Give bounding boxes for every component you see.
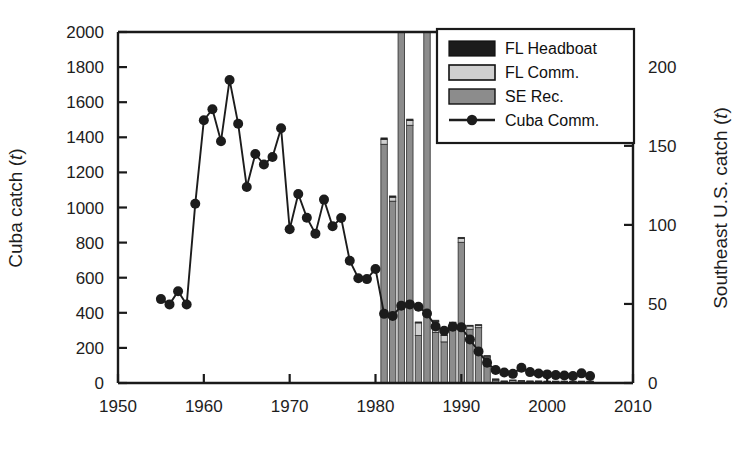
bar-segment bbox=[535, 381, 541, 382]
legend-label-fl-comm: FL Comm. bbox=[505, 64, 579, 81]
bar-segment bbox=[484, 356, 490, 357]
cuba-comm-point bbox=[156, 294, 166, 304]
x-tick-label: 1960 bbox=[185, 397, 223, 416]
bar-segment bbox=[561, 381, 567, 382]
cuba-comm-point bbox=[225, 75, 235, 85]
y-tick-label-left: 1000 bbox=[66, 199, 104, 218]
y-tick-label-left: 1400 bbox=[66, 128, 104, 147]
legend-label-fl-headboat: FL Headboat bbox=[505, 40, 597, 57]
y-tick-label-right: 150 bbox=[648, 137, 676, 156]
bar-stack bbox=[467, 325, 473, 383]
legend-item-fl-headboat[interactable]: FL Headboat bbox=[449, 40, 597, 57]
cuba-comm-point bbox=[250, 149, 260, 159]
cuba-comm-point bbox=[431, 321, 441, 331]
legend: FL Headboat FL Comm. SE Rec. Cuba Comm. bbox=[437, 29, 634, 143]
bar-segment bbox=[467, 325, 473, 326]
cuba-comm-point bbox=[362, 274, 372, 284]
bar-segment bbox=[415, 323, 421, 336]
y-tick-label-right: 50 bbox=[648, 295, 667, 314]
bar-segment bbox=[458, 237, 464, 238]
bar-segment bbox=[415, 322, 421, 323]
bar-segment bbox=[467, 326, 473, 329]
legend-label-se-rec: SE Rec. bbox=[505, 88, 564, 105]
cuba-comm-point bbox=[422, 309, 432, 319]
bar-segment bbox=[587, 381, 593, 382]
bar-segment bbox=[432, 332, 438, 383]
x-tick-label: 2010 bbox=[614, 397, 652, 416]
legend-item-se-rec[interactable]: SE Rec. bbox=[449, 88, 564, 105]
cuba-comm-point bbox=[491, 365, 501, 375]
bar-segment bbox=[441, 342, 447, 383]
y-tick-label-left: 600 bbox=[76, 269, 104, 288]
cuba-comm-point bbox=[396, 301, 406, 311]
y-tick-label-left: 2000 bbox=[66, 23, 104, 42]
bar-segment bbox=[501, 381, 507, 382]
bar-stack bbox=[441, 335, 447, 383]
cuba-comm-point bbox=[293, 189, 303, 199]
cuba-comm-point bbox=[499, 367, 509, 377]
cuba-comm-point bbox=[413, 302, 423, 312]
cuba-comm-point bbox=[388, 311, 398, 321]
bar-segment bbox=[553, 381, 559, 382]
legend-swatch-fl-headboat bbox=[449, 41, 495, 56]
cuba-comm-point bbox=[207, 104, 217, 114]
cuba-comm-point bbox=[456, 322, 466, 332]
y-tick-label-right: 100 bbox=[648, 216, 676, 235]
bar-segment bbox=[432, 320, 438, 321]
cuba-comm-point bbox=[302, 213, 312, 223]
cuba-comm-point bbox=[585, 371, 595, 381]
bar-segment bbox=[578, 381, 584, 382]
chart-svg: 1950196019701980199020002010020040060080… bbox=[0, 0, 747, 449]
bar-segment bbox=[424, 32, 430, 383]
cuba-comm-point bbox=[465, 334, 475, 344]
bar-stack bbox=[407, 119, 413, 383]
y-tick-label-left: 400 bbox=[76, 304, 104, 323]
bar-segment bbox=[492, 379, 498, 380]
bar-segment bbox=[510, 380, 516, 381]
bar-stack bbox=[458, 237, 464, 383]
bar-segment bbox=[441, 336, 447, 342]
bar-segment bbox=[570, 381, 576, 382]
cuba-comm-point bbox=[516, 363, 526, 373]
bar-segment bbox=[527, 381, 533, 382]
cuba-comm-point bbox=[328, 221, 338, 231]
y-axis-label-left: Cuba catch (t) bbox=[5, 148, 26, 267]
bar-stack bbox=[398, 19, 404, 383]
bar-stack bbox=[389, 196, 395, 383]
y-tick-label-left: 0 bbox=[95, 374, 104, 393]
chart-figure: 1950196019701980199020002010020040060080… bbox=[0, 0, 747, 449]
y-tick-label-right: 200 bbox=[648, 58, 676, 77]
cuba-comm-point bbox=[525, 367, 535, 377]
cuba-comm-point bbox=[577, 368, 587, 378]
cuba-comm-point bbox=[173, 286, 183, 296]
cuba-comm-point bbox=[285, 224, 295, 234]
cuba-comm-point bbox=[439, 326, 449, 336]
cuba-comm-point bbox=[310, 229, 320, 239]
bar-segment bbox=[415, 336, 421, 383]
y-axis-label-right: Southeast U.S. catch (t) bbox=[710, 107, 731, 309]
legend-swatch-fl-comm bbox=[449, 65, 495, 80]
cuba-comm-point bbox=[371, 264, 381, 274]
cuba-comm-point bbox=[482, 358, 492, 368]
cuba-comm-point bbox=[336, 213, 346, 223]
legend-swatch-se-rec bbox=[449, 89, 495, 104]
bar-segment bbox=[407, 119, 413, 120]
bar-segment bbox=[450, 328, 456, 383]
bar-segment bbox=[398, 24, 404, 383]
cuba-comm-point bbox=[268, 152, 278, 162]
cuba-comm-point bbox=[182, 300, 192, 310]
y-tick-label-left: 800 bbox=[76, 234, 104, 253]
x-tick-label: 2000 bbox=[528, 397, 566, 416]
bar-segment bbox=[458, 238, 464, 242]
bar-segment bbox=[407, 121, 413, 126]
cuba-comm-point bbox=[242, 182, 252, 192]
y-tick-label-left: 1200 bbox=[66, 163, 104, 182]
bar-segment bbox=[475, 325, 481, 326]
bar-stack bbox=[424, 27, 430, 383]
cuba-comm-point bbox=[534, 369, 544, 379]
x-tick-label: 1970 bbox=[271, 397, 309, 416]
cuba-comm-point bbox=[259, 160, 269, 170]
x-tick-label: 1990 bbox=[442, 397, 480, 416]
y-tick-label-left: 1800 bbox=[66, 58, 104, 77]
legend-item-fl-comm[interactable]: FL Comm. bbox=[449, 64, 579, 81]
